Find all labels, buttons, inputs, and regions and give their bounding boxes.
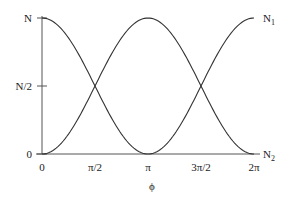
series-n2-label: N2 [263,148,275,163]
x-tick-label: 3π/2 [191,161,211,173]
x-tick-label: π/2 [88,161,102,173]
x-tick-label: 0 [39,161,45,173]
labels: 0N/2N0π/2π3π/22πϕN1N2 [16,12,275,192]
x-axis-label: ϕ [149,180,155,192]
curves [42,18,254,154]
x-tick-label: 2π [248,161,260,173]
y-tick-label: 0 [27,148,33,160]
series-n1-line [42,18,254,154]
chart-canvas: 0N/2N0π/2π3π/22πϕN1N2 [0,0,290,200]
y-tick-label: N/2 [16,80,33,92]
series-n2-line [42,18,254,154]
series-n1-label: N1 [263,12,275,27]
x-tick-label: π [145,161,151,173]
y-tick-label: N [24,12,32,24]
